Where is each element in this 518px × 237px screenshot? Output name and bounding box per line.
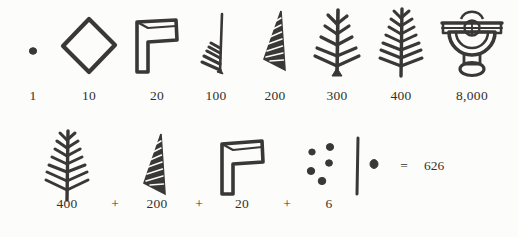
equals-sign: = — [392, 158, 416, 174]
label-400: 400 — [370, 88, 432, 104]
glyph-300-feather — [306, 4, 368, 82]
example-label-200: 200 — [130, 196, 184, 212]
label-20: 20 — [128, 88, 186, 104]
glyph-1-dot — [10, 18, 56, 78]
example-glyph-400 — [34, 126, 100, 206]
glyph-100-frond — [190, 8, 242, 82]
glyph-8000-chalice — [436, 6, 508, 82]
example-label-6: 6 — [306, 196, 352, 212]
glyph-20-flag — [128, 10, 186, 80]
operator-plus-1: + — [100, 196, 130, 212]
label-8000: 8,000 — [436, 88, 508, 104]
example-label-20: 20 — [212, 196, 272, 212]
label-10: 10 — [58, 88, 120, 104]
glyph-200-frond — [248, 6, 302, 82]
label-100: 100 — [190, 88, 242, 104]
numeral-chart-figure: 1 10 20 100 — [0, 0, 518, 237]
example-glyph-200 — [130, 128, 184, 206]
glyph-400-feather — [370, 4, 432, 82]
example-glyph-6-dots — [296, 134, 386, 204]
operator-plus-2: + — [184, 196, 214, 212]
glyph-10-diamond — [58, 10, 120, 80]
label-1: 1 — [10, 88, 56, 104]
example-glyph-20 — [212, 130, 272, 204]
label-200: 200 — [248, 88, 302, 104]
example-label-400: 400 — [34, 196, 100, 212]
example-total: 626 — [424, 158, 444, 174]
label-300: 300 — [306, 88, 368, 104]
